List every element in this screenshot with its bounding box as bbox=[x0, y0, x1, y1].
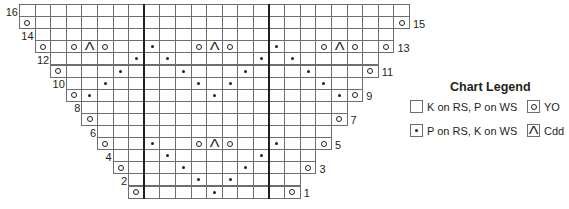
dot-icon bbox=[151, 142, 154, 145]
dot-icon bbox=[182, 70, 185, 73]
yo-circle-icon bbox=[227, 44, 233, 50]
dot-icon bbox=[307, 70, 310, 73]
row-number-label: 16 bbox=[4, 6, 18, 18]
dot-icon bbox=[410, 124, 423, 137]
legend-title: Chart Legend bbox=[450, 80, 531, 94]
yo-circle-icon bbox=[321, 44, 327, 50]
chart-cell bbox=[347, 89, 364, 102]
repeat-boundary-line bbox=[143, 4, 145, 199]
yo-circle-icon bbox=[55, 68, 61, 74]
dot-icon bbox=[260, 154, 263, 157]
repeat-boundary-line bbox=[268, 4, 270, 199]
dot-icon bbox=[213, 94, 216, 97]
chart-cell bbox=[66, 89, 83, 102]
chart-cell bbox=[206, 186, 223, 199]
dot-icon bbox=[229, 178, 232, 181]
dot-icon bbox=[119, 70, 122, 73]
chart-cell bbox=[237, 186, 254, 199]
legend-label-yo: YO bbox=[544, 101, 560, 113]
yo-circle-icon bbox=[305, 165, 311, 171]
chart-cell bbox=[331, 113, 348, 126]
chart-cell bbox=[159, 186, 176, 199]
row-number-label: 2 bbox=[113, 175, 127, 187]
dot-icon bbox=[338, 94, 341, 97]
row-number-label: 3 bbox=[319, 163, 325, 175]
chart-cell bbox=[315, 137, 332, 150]
dot-icon bbox=[197, 178, 200, 181]
yo-circle-icon bbox=[527, 100, 540, 113]
yo-circle-icon bbox=[40, 44, 46, 50]
chart-cell bbox=[144, 186, 161, 199]
dot-icon bbox=[166, 57, 169, 60]
yo-circle-icon bbox=[24, 20, 30, 26]
dot-icon bbox=[291, 57, 294, 60]
row-number-label: 7 bbox=[351, 114, 357, 126]
row-number-label: 11 bbox=[382, 66, 393, 78]
chart-cell bbox=[175, 186, 192, 199]
dot-icon bbox=[104, 82, 107, 85]
dot-icon bbox=[166, 154, 169, 157]
chart-cell bbox=[128, 186, 145, 199]
row-number-label: 8 bbox=[66, 102, 80, 114]
yo-circle-icon bbox=[133, 189, 139, 195]
dot-icon bbox=[135, 57, 138, 60]
chart-cell bbox=[222, 186, 239, 199]
legend-item-yo: YO bbox=[527, 100, 560, 113]
row-number-label: 15 bbox=[413, 18, 425, 30]
yo-circle-icon bbox=[352, 92, 358, 98]
dot-icon bbox=[244, 70, 247, 73]
dot-icon bbox=[213, 191, 216, 194]
row-number-label: 6 bbox=[82, 127, 96, 139]
yo-circle-icon bbox=[321, 141, 327, 147]
yo-circle-icon bbox=[118, 165, 124, 171]
knitting-chart: 161514ΛΛΛ131211109876Λ54321 bbox=[0, 0, 420, 209]
legend-label-purl: P on RS, K on WS bbox=[427, 125, 517, 137]
chart-cell bbox=[81, 113, 98, 126]
dot-icon bbox=[275, 45, 278, 48]
yo-circle-icon bbox=[196, 141, 202, 147]
dot-icon bbox=[182, 166, 185, 169]
chart-cell bbox=[113, 161, 130, 174]
dot-icon bbox=[322, 82, 325, 85]
chart-cell bbox=[97, 137, 114, 150]
legend-label-cdd: Cdd bbox=[544, 125, 564, 137]
cdd-caret-icon: Λ bbox=[334, 41, 344, 52]
yo-circle-icon bbox=[87, 116, 93, 122]
empty-square-icon bbox=[410, 100, 423, 113]
yo-circle-icon bbox=[383, 44, 389, 50]
dot-icon bbox=[229, 82, 232, 85]
row-number-label: 10 bbox=[51, 78, 65, 90]
legend-item-knit: K on RS, P on WS bbox=[410, 100, 517, 113]
dot-icon bbox=[244, 166, 247, 169]
yo-circle-icon bbox=[352, 44, 358, 50]
chart-cell bbox=[35, 40, 52, 53]
row-number-label: 13 bbox=[397, 42, 409, 54]
row-number-label: 14 bbox=[20, 30, 34, 42]
cdd-caret-icon: Λ bbox=[210, 138, 220, 149]
chart-cell bbox=[284, 186, 301, 199]
yo-circle-icon bbox=[336, 116, 342, 122]
yo-circle-icon bbox=[102, 44, 108, 50]
chart-cell bbox=[378, 40, 395, 53]
chart-cell bbox=[300, 161, 317, 174]
legend-label-knit: K on RS, P on WS bbox=[427, 101, 517, 113]
row-number-label: 4 bbox=[98, 151, 112, 163]
yo-circle-icon bbox=[367, 68, 373, 74]
yo-circle-icon bbox=[196, 44, 202, 50]
chart-cell bbox=[253, 186, 270, 199]
yo-circle-icon bbox=[71, 92, 77, 98]
cdd-caret-icon: Λ bbox=[85, 41, 95, 52]
chart-cell bbox=[362, 65, 379, 78]
legend-item-purl: P on RS, K on WS bbox=[410, 124, 517, 137]
yo-circle-icon bbox=[399, 20, 405, 26]
chart-cell bbox=[269, 186, 286, 199]
dot-icon bbox=[151, 45, 154, 48]
chart-cell bbox=[50, 65, 67, 78]
cdd-caret-icon: Λ bbox=[210, 41, 220, 52]
cdd-caret-icon: Λ bbox=[527, 124, 540, 137]
yo-circle-icon bbox=[102, 141, 108, 147]
chart-cell bbox=[393, 16, 410, 29]
row-number-label: 5 bbox=[335, 139, 341, 151]
row-number-label: 9 bbox=[366, 90, 372, 102]
dot-icon bbox=[260, 57, 263, 60]
